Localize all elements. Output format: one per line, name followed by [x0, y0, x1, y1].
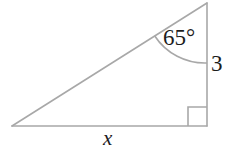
angle-label: 65° — [163, 26, 195, 49]
right-angle-marker-icon — [188, 107, 207, 126]
triangle-svg — [0, 0, 234, 152]
side-length-label-adjacent: x — [103, 128, 112, 149]
hypotenuse-line — [12, 3, 207, 126]
triangle-figure: 65° 3 x — [0, 0, 234, 152]
side-length-label-opposite: 3 — [211, 52, 223, 75]
